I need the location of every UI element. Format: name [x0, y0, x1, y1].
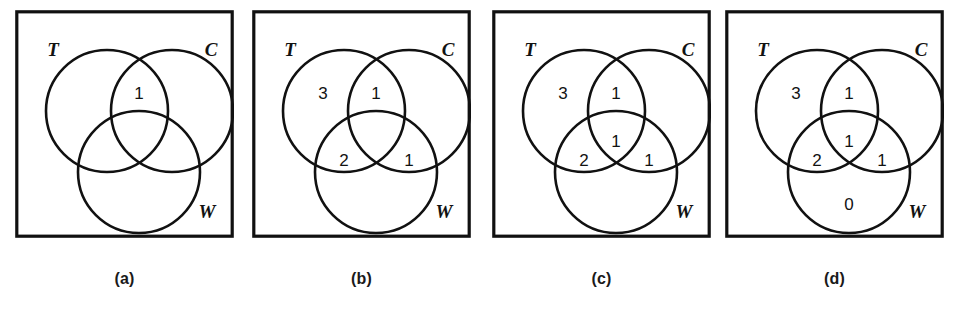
- panel-caption-c: (c): [492, 270, 711, 288]
- region-count-t-and-w: 2: [579, 151, 588, 170]
- set-label-t: T: [524, 39, 537, 60]
- venn-figure: TCW1(a)TCW3121(b)TCW31211(c)TCW312110(d): [0, 0, 961, 312]
- set-label-c: C: [682, 39, 695, 60]
- set-label-w: W: [199, 201, 217, 222]
- venn-panel-c: TCW31211: [492, 10, 711, 238]
- set-label-w: W: [909, 201, 927, 222]
- region-count-t-only: 3: [558, 84, 567, 103]
- set-label-w: W: [676, 201, 694, 222]
- region-count-t-only: 3: [791, 84, 800, 103]
- set-label-t: T: [757, 39, 770, 60]
- region-count-t-c-w: 1: [844, 132, 853, 151]
- set-label-c: C: [442, 39, 455, 60]
- venn-diagram-d: TCW312110: [725, 10, 944, 238]
- set-label-c: C: [205, 39, 218, 60]
- panel-caption-a: (a): [15, 270, 234, 288]
- venn-diagram-c: TCW31211: [492, 10, 711, 238]
- region-count-t-and-c: 1: [844, 84, 853, 103]
- panel-caption-d: (d): [725, 270, 944, 288]
- region-count-c-and-w: 1: [404, 151, 413, 170]
- region-count-t-and-c: 1: [371, 84, 380, 103]
- region-count-t-and-w: 2: [339, 151, 348, 170]
- set-label-c: C: [915, 39, 928, 60]
- panel-caption-b: (b): [252, 270, 471, 288]
- region-count-c-and-w: 1: [877, 151, 886, 170]
- venn-panel-a: TCW1: [15, 10, 234, 238]
- venn-diagram-a: TCW1: [15, 10, 234, 238]
- set-label-t: T: [284, 39, 297, 60]
- region-count-t-and-c: 1: [134, 84, 143, 103]
- region-count-t-and-w: 2: [812, 151, 821, 170]
- set-label-t: T: [47, 39, 60, 60]
- set-label-w: W: [436, 201, 454, 222]
- venn-diagram-b: TCW3121: [252, 10, 471, 238]
- region-count-t-only: 3: [318, 84, 327, 103]
- region-count-t-c-w: 1: [611, 132, 620, 151]
- region-count-w-only: 0: [844, 195, 853, 214]
- region-count-c-and-w: 1: [644, 151, 653, 170]
- venn-panel-b: TCW3121: [252, 10, 471, 238]
- venn-panel-d: TCW312110: [725, 10, 944, 238]
- region-count-t-and-c: 1: [611, 84, 620, 103]
